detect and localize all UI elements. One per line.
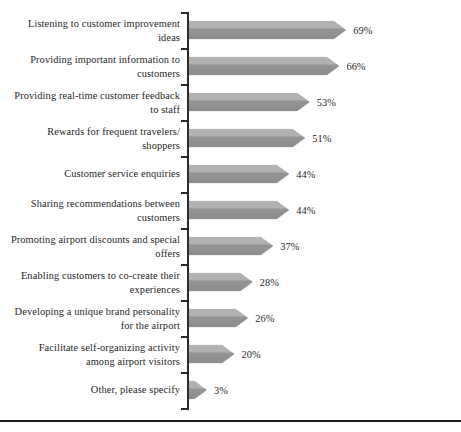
axis-tick	[181, 264, 188, 266]
axis-tick	[181, 228, 188, 230]
bar-value-label: 66%	[346, 61, 365, 72]
bar-shape	[189, 129, 305, 148]
chart-row: Sharing recommendations between customer…	[0, 192, 461, 228]
bar-value-label: 37%	[280, 241, 299, 252]
bar-shape	[189, 165, 289, 184]
chart-row: Customer service enquiries44%	[0, 156, 461, 192]
category-label: Enabling customers to co-create their ex…	[4, 269, 180, 296]
bar-shape	[189, 273, 253, 292]
bar-shape	[189, 381, 207, 400]
axis-tick	[181, 336, 188, 338]
bar-value-label: 51%	[312, 133, 331, 144]
chart-row: Providing real-time customer feedback to…	[0, 84, 461, 120]
chart-row: Enabling customers to co-create their ex…	[0, 264, 461, 300]
chart-row: Facilitate self-organizing activity amon…	[0, 336, 461, 372]
bar-shape	[189, 237, 273, 256]
axis-tick	[181, 372, 188, 374]
chart-rows: Listening to customer improvement ideas6…	[0, 12, 461, 410]
category-label: Promoting airport discounts and special …	[4, 233, 180, 260]
bar	[189, 21, 346, 40]
chart-row: Other, please specify3%	[0, 372, 461, 408]
bar	[189, 237, 273, 256]
bar-value-label: 28%	[260, 277, 279, 288]
axis-tick	[181, 192, 188, 194]
bottom-rule	[0, 420, 461, 422]
axis-tick	[181, 12, 188, 14]
bar-shape	[189, 57, 339, 76]
category-label: Providing real-time customer feedback to…	[4, 89, 180, 116]
chart-row: Developing a unique brand personality fo…	[0, 300, 461, 336]
bar	[189, 129, 305, 148]
bar	[189, 309, 248, 328]
category-label: Providing important information to custo…	[4, 53, 180, 80]
category-label: Developing a unique brand personality fo…	[4, 305, 180, 332]
bar	[189, 381, 207, 400]
bar-value-label: 53%	[317, 97, 336, 108]
bar-shape	[189, 309, 248, 328]
bar-value-label: 26%	[255, 313, 274, 324]
bar-shape	[189, 93, 310, 112]
axis-tick	[181, 48, 188, 50]
bar	[189, 273, 253, 292]
bar-value-label: 20%	[242, 349, 261, 360]
axis-tick	[181, 84, 188, 86]
axis-tick	[181, 156, 188, 158]
chart-row: Providing important information to custo…	[0, 48, 461, 84]
bar-value-label: 44%	[296, 169, 315, 180]
bar-value-label: 69%	[353, 25, 372, 36]
bar	[189, 165, 289, 184]
bar	[189, 57, 339, 76]
chart-row: Promoting airport discounts and special …	[0, 228, 461, 264]
bar	[189, 345, 235, 364]
bar-value-label: 3%	[214, 385, 228, 396]
category-label: Sharing recommendations between customer…	[4, 197, 180, 224]
chart-row: Rewards for frequent travelers/ shoppers…	[0, 120, 461, 156]
horizontal-bar-chart: Listening to customer improvement ideas6…	[0, 0, 461, 432]
axis-tick	[181, 120, 188, 122]
bar-shape	[189, 345, 235, 364]
category-label: Customer service enquiries	[4, 167, 180, 181]
bar	[189, 201, 289, 220]
category-label: Rewards for frequent travelers/ shoppers	[4, 125, 180, 152]
category-label: Facilitate self-organizing activity amon…	[4, 341, 180, 368]
bar-shape	[189, 21, 346, 40]
axis-tick	[181, 300, 188, 302]
chart-row: Listening to customer improvement ideas6…	[0, 12, 461, 48]
bar	[189, 93, 310, 112]
bar-value-label: 44%	[296, 205, 315, 216]
category-label: Other, please specify	[4, 383, 180, 397]
bar-shape	[189, 201, 289, 220]
category-label: Listening to customer improvement ideas	[4, 17, 180, 44]
